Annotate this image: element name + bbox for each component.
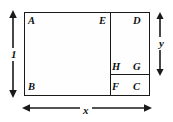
vertex-label-a: A (28, 16, 35, 27)
vertex-label-g: G (133, 62, 141, 73)
vertex-label-h: H (112, 62, 120, 73)
dimension-label-height: 1 (10, 48, 18, 61)
vertex-label-f: F (112, 82, 119, 93)
vertex-label-e: E (99, 16, 106, 27)
divider-line-ef (110, 12, 111, 96)
dimension-label-y: y (157, 37, 166, 50)
vertex-label-d: D (133, 16, 141, 27)
geometry-figure: A E D H G B F C 1 y x (0, 0, 173, 122)
vertex-label-c: C (133, 82, 140, 93)
vertex-label-b: B (28, 82, 35, 93)
dimension-label-width: x (80, 104, 92, 117)
main-rectangle (24, 12, 150, 96)
divider-line-hg (110, 74, 150, 75)
